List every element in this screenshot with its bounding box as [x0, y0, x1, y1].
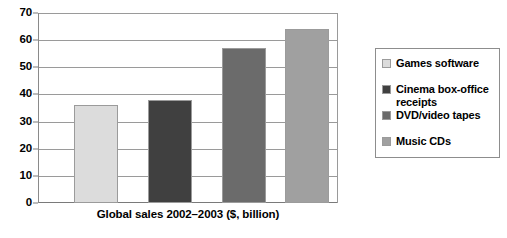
y-axis-tick-label: 20	[0, 143, 32, 155]
y-axis-tick-label: 40	[0, 89, 32, 101]
bar-chart-figure: 70 60 50 40 30 20 10 0 Global sales	[0, 0, 507, 238]
legend-item-dvd-video-tapes: DVD/video tapes	[382, 109, 481, 122]
legend: Games software Cinema box-office receipt…	[375, 48, 500, 158]
legend-swatch-icon	[382, 111, 391, 120]
legend-item-label: Games software	[396, 57, 479, 70]
legend-swatch-icon	[382, 85, 391, 94]
legend-item-label: Music CDs	[396, 135, 451, 148]
y-axis-tick-label: 60	[0, 34, 32, 46]
legend-swatch-icon	[382, 59, 391, 68]
bar-music-cds	[285, 29, 329, 203]
legend-item-games-software: Games software	[382, 57, 479, 70]
legend-item-music-cds: Music CDs	[382, 135, 451, 148]
y-axis-tick-label: 30	[0, 116, 32, 128]
legend-swatch-icon	[382, 137, 391, 146]
y-axis-tick-label: 70	[0, 7, 32, 19]
legend-item-label: DVD/video tapes	[396, 109, 481, 122]
y-axis-tick-label: 50	[0, 62, 32, 74]
x-axis-caption: Global sales 2002–2003 ($, billion)	[38, 208, 338, 220]
bar-cinema-box-office-receipts	[148, 100, 192, 203]
legend-item-label: Cinema box-office receipts	[396, 83, 499, 108]
legend-item-cinema-box-office-receipts: Cinema box-office receipts	[382, 83, 499, 108]
y-axis-tick-label: 0	[0, 197, 32, 209]
bars-layer	[38, 13, 338, 203]
bar-dvd-video-tapes	[222, 48, 266, 203]
bar-games-software	[74, 105, 118, 203]
y-axis-tick-label: 10	[0, 170, 32, 182]
y-axis: 70 60 50 40 30 20 10 0	[0, 13, 32, 203]
